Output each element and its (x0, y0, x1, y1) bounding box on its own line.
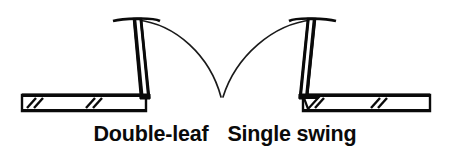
left-wall-group (22, 95, 146, 111)
left-wall-outline (22, 95, 146, 111)
right-swing-arc (223, 20, 312, 97)
right-wall-outline (303, 95, 430, 111)
caption-row: Double-leaf Single swing (0, 118, 450, 151)
door-swing-figure: Double-leaf Single swing (0, 0, 450, 151)
right-wall-group (303, 95, 430, 111)
caption-single-swing: Single swing (227, 124, 356, 146)
left-door-hinge-foot (140, 94, 150, 99)
caption-double-leaf: Double-leaf (94, 124, 209, 146)
left-swing-arc (137, 20, 221, 97)
left-door-leaf-group (113, 19, 160, 99)
